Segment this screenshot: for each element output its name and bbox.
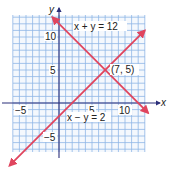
tick-y-10: 10 xyxy=(45,31,57,42)
tick-x-10: 10 xyxy=(119,105,131,116)
tick-x-neg5: −5 xyxy=(15,105,27,116)
equation-label-x-minus-y-2: x − y = 2 xyxy=(67,112,106,123)
x-axis-label: x xyxy=(160,97,167,108)
intersection-label: (7, 5) xyxy=(111,64,134,75)
graph-system-of-equations: y x −5 5 10 10 5 −5 x + y = 12 x − y = 2… xyxy=(0,0,170,174)
tick-y-5: 5 xyxy=(50,65,56,76)
tick-y-neg5: −5 xyxy=(44,132,56,143)
grid xyxy=(13,15,145,152)
equation-label-x-plus-y-12: x + y = 12 xyxy=(74,21,118,32)
y-axis-label: y xyxy=(48,4,55,15)
